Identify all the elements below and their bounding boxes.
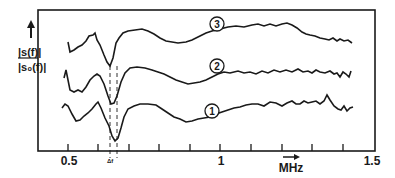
curve-1-label: 1	[205, 104, 219, 118]
curve-2	[64, 67, 351, 104]
x-axis-arrow-icon	[283, 154, 300, 160]
chart: |s(f)| |s₀(f)| Δf 3 2 1 0.5	[0, 0, 395, 178]
delta-f-markers	[110, 66, 117, 158]
x-ticks	[68, 144, 343, 151]
curve-1	[62, 95, 353, 141]
x-axis-label: MHz	[279, 161, 304, 175]
svg-text:1: 1	[209, 106, 215, 117]
svg-text:2: 2	[214, 61, 220, 72]
y-axis-arrow-icon	[27, 20, 35, 38]
x-tick-label-1: 1	[218, 154, 225, 168]
svg-text:3: 3	[214, 19, 220, 30]
x-tick-label-1-5: 1.5	[364, 154, 381, 168]
delta-f-label: Δf	[107, 158, 114, 164]
curve-3-label: 3	[210, 17, 224, 31]
curve-2-label: 2	[210, 59, 224, 73]
x-tick-label-0-5: 0.5	[61, 154, 78, 168]
y-label-denominator: |s₀(f)|	[18, 61, 46, 73]
curve-3	[68, 23, 352, 66]
